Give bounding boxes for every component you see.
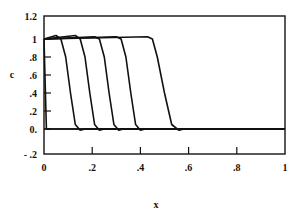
x-tick-label: 0 <box>42 162 47 173</box>
x-tick-label: .6 <box>185 162 193 173</box>
x-tick-label: .8 <box>233 162 241 173</box>
x-axis-label: x <box>154 199 159 210</box>
y-tick-label: 1 <box>32 34 37 45</box>
y-tick-label: 0. <box>30 124 38 135</box>
axis-ticks: 1.21.8.6.4.20.- .20.2.4.6.81 <box>24 11 288 174</box>
x-tick-label: .2 <box>88 162 96 173</box>
data-series <box>44 36 285 131</box>
y-tick-label: 1.2 <box>25 11 38 22</box>
series-line <box>44 37 285 131</box>
y-tick-label: - .2 <box>24 149 37 160</box>
series-line <box>44 39 285 129</box>
x-tick-label: .4 <box>137 162 145 173</box>
series-line <box>44 37 285 131</box>
series-line <box>44 36 285 131</box>
y-tick-label: .4 <box>30 88 38 99</box>
series-line <box>44 36 285 131</box>
y-tick-label: .6 <box>30 70 38 81</box>
line-chart: 1.21.8.6.4.20.- .20.2.4.6.81 x c <box>0 0 302 215</box>
y-tick-label: .2 <box>30 106 38 117</box>
y-tick-label: .8 <box>30 52 38 63</box>
series-line <box>44 37 285 131</box>
y-axis-label: c <box>10 69 15 80</box>
x-tick-label: 1 <box>283 162 288 173</box>
